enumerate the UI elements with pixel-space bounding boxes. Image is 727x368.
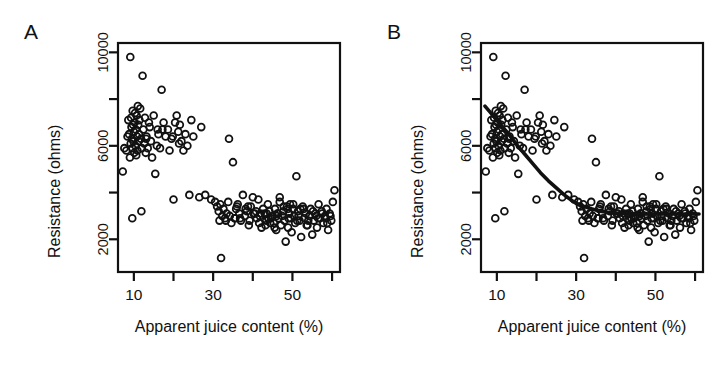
data-point — [639, 194, 646, 201]
scatter-plot-a: 2000600010000103050 — [0, 0, 364, 368]
data-point — [549, 191, 556, 198]
data-point — [692, 199, 699, 206]
panel-a: A Resistance (ohms) Apparent juice conte… — [0, 0, 364, 368]
data-point — [588, 199, 595, 206]
data-point — [694, 187, 701, 194]
data-point — [138, 208, 145, 215]
data-point — [127, 54, 134, 61]
data-point — [523, 119, 530, 126]
data-point — [551, 117, 558, 124]
data-point — [230, 159, 237, 166]
data-point — [184, 142, 191, 149]
x-tick-label: 10 — [488, 286, 506, 303]
data-point — [501, 208, 508, 215]
data-point — [158, 86, 165, 93]
data-point — [152, 170, 159, 177]
x-tick-label: 10 — [125, 286, 143, 303]
scatter-plot-b: 2000600010000103050 — [363, 0, 727, 368]
y-tick-label: 2000 — [95, 223, 111, 255]
data-points — [119, 54, 337, 262]
data-point — [146, 124, 153, 131]
data-point — [589, 135, 596, 142]
data-point — [190, 133, 197, 140]
data-point — [276, 194, 283, 201]
data-points — [482, 54, 700, 262]
data-point — [182, 131, 189, 138]
data-point — [547, 142, 554, 149]
data-point — [246, 217, 253, 224]
data-point — [150, 112, 157, 119]
data-point — [677, 224, 684, 231]
y-tick-label: 6000 — [458, 130, 474, 162]
data-point — [166, 147, 173, 154]
data-point — [315, 201, 322, 208]
x-tick-label: 50 — [647, 286, 665, 303]
data-point — [170, 196, 177, 203]
data-point — [149, 154, 156, 161]
plot-frame — [481, 43, 703, 272]
data-point — [602, 191, 609, 198]
data-point — [678, 201, 685, 208]
data-point — [513, 112, 520, 119]
data-point — [218, 255, 225, 262]
data-point — [661, 234, 668, 241]
data-point — [186, 191, 193, 198]
data-point — [282, 238, 289, 245]
data-point — [656, 173, 663, 180]
data-point — [593, 159, 600, 166]
y-tick-label: 2000 — [458, 223, 474, 255]
data-point — [325, 227, 332, 234]
data-point — [536, 112, 543, 119]
data-point — [502, 72, 509, 79]
data-point — [264, 201, 271, 208]
data-point — [672, 231, 679, 238]
data-point — [314, 224, 321, 231]
data-point — [492, 215, 499, 222]
figure-container: A Resistance (ohms) Apparent juice conte… — [0, 0, 727, 368]
data-point — [226, 135, 233, 142]
data-point — [515, 170, 522, 177]
x-tick-label: 30 — [205, 286, 223, 303]
data-point — [173, 112, 180, 119]
data-point — [581, 255, 588, 262]
data-point — [139, 72, 146, 79]
data-point — [688, 227, 695, 234]
data-point — [561, 124, 568, 131]
data-point — [239, 191, 246, 198]
data-point — [609, 217, 616, 224]
data-point — [298, 234, 305, 241]
data-point — [329, 199, 336, 206]
data-point — [521, 86, 528, 93]
data-point — [545, 131, 552, 138]
data-point — [490, 54, 497, 61]
data-point — [309, 231, 316, 238]
data-point — [533, 196, 540, 203]
data-point — [553, 133, 560, 140]
y-tick-label: 10000 — [95, 32, 111, 72]
plot-frame — [118, 43, 340, 272]
x-tick-label: 50 — [284, 286, 302, 303]
data-point — [627, 201, 634, 208]
data-point — [331, 187, 338, 194]
y-tick-label: 10000 — [458, 32, 474, 72]
y-tick-label: 6000 — [95, 130, 111, 162]
panel-b: B Resistance (ohms) Apparent juice conte… — [363, 0, 727, 368]
data-point — [293, 173, 300, 180]
data-point — [645, 238, 652, 245]
data-point — [129, 215, 136, 222]
data-point — [529, 147, 536, 154]
data-point — [509, 124, 516, 131]
data-point — [119, 168, 126, 175]
x-tick-label: 30 — [568, 286, 586, 303]
data-point — [188, 117, 195, 124]
data-point — [482, 168, 489, 175]
data-point — [198, 124, 205, 131]
data-point — [225, 199, 232, 206]
data-point — [160, 119, 167, 126]
data-point — [512, 154, 519, 161]
